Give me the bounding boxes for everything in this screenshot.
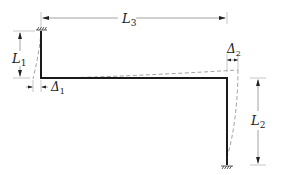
arrow-up-icon: [18, 32, 22, 39]
arrow-left-icon: [41, 86, 46, 89]
left-fixed-support: [36, 27, 47, 30]
arrow-down-icon: [18, 70, 22, 77]
l2-label: L2: [250, 113, 265, 130]
delta2-label: Δ2: [226, 42, 241, 58]
arrow-left-icon: [227, 59, 231, 62]
arrow-up-icon: [256, 79, 260, 86]
arrow-left-icon: [42, 16, 49, 20]
arrow-right-icon: [28, 86, 33, 89]
l1-label: L1: [11, 51, 26, 68]
l1-dimension: L1: [11, 31, 35, 78]
right-fixed-support: [221, 166, 233, 169]
arrow-right-icon: [234, 59, 238, 62]
delta2-dimension: Δ2: [226, 42, 241, 72]
arrow-right-icon: [219, 16, 226, 20]
delta1-label: Δ1: [50, 80, 65, 96]
frame: [40, 31, 228, 165]
portal-frame-diagram: L3 L1: [0, 0, 282, 175]
l2-dimension: L2: [250, 78, 266, 165]
l3-dimension: L3: [41, 11, 227, 28]
l3-label: L3: [121, 11, 137, 28]
delta1-dimension: Δ1: [26, 80, 65, 96]
arrow-down-icon: [256, 157, 260, 164]
